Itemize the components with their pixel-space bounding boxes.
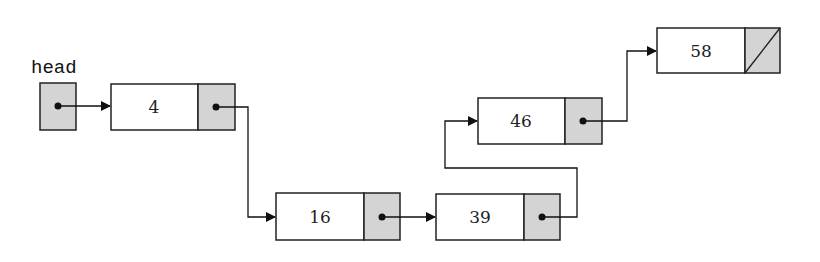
node-value: 46: [510, 111, 532, 131]
node-value: 39: [469, 207, 491, 227]
head-label: head: [31, 57, 77, 79]
node-value: 4: [149, 97, 160, 117]
node-16: 16: [276, 193, 400, 240]
node-39: 39: [436, 194, 560, 240]
node-value: 16: [309, 207, 331, 227]
linked-list-diagram: head 4 16 39 46 58: [0, 0, 820, 262]
node-58: 58: [657, 28, 780, 73]
node-value: 58: [690, 41, 712, 61]
head-pointer: head: [31, 57, 110, 130]
